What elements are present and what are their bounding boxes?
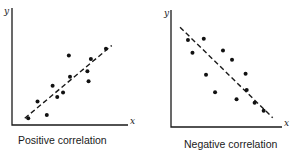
- data-point: [45, 113, 49, 117]
- x-axis-label: x: [130, 116, 135, 126]
- data-points: [26, 47, 108, 120]
- data-point: [68, 75, 72, 79]
- data-point: [104, 47, 108, 51]
- negative-correlation-plot: y x: [163, 8, 289, 128]
- data-point: [61, 91, 65, 95]
- data-point: [87, 79, 91, 83]
- axes: [171, 10, 282, 127]
- data-point: [36, 99, 40, 103]
- data-point: [204, 73, 208, 77]
- positive-correlation-plot: y x: [3, 6, 135, 126]
- data-point: [190, 51, 194, 55]
- data-point: [51, 84, 55, 88]
- data-points: [186, 37, 266, 113]
- data-point: [213, 90, 217, 94]
- data-point: [186, 38, 190, 42]
- chart-caption-negative: Negative correlation: [184, 138, 277, 150]
- chart-caption-positive: Positive correlation: [18, 134, 107, 146]
- data-point: [67, 54, 71, 58]
- y-axis-label: y: [3, 6, 10, 16]
- data-point: [244, 72, 248, 76]
- x-axis-label: x: [284, 118, 289, 128]
- data-point: [89, 57, 93, 61]
- data-point: [230, 58, 234, 62]
- data-point: [245, 88, 249, 92]
- data-point: [26, 116, 30, 120]
- data-point: [262, 109, 266, 113]
- y-axis-label: y: [163, 8, 170, 18]
- data-point: [253, 101, 257, 105]
- data-point: [235, 97, 239, 101]
- data-point: [55, 95, 59, 99]
- data-point: [85, 69, 89, 73]
- data-point: [221, 48, 225, 52]
- axes: [12, 8, 128, 125]
- data-point: [202, 37, 206, 41]
- trend-line: [180, 27, 273, 117]
